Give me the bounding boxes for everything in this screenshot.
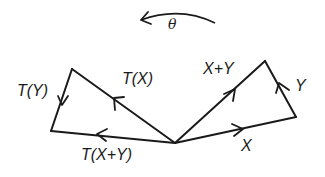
edge-x bbox=[175, 117, 296, 143]
edge-t-x-plus-y bbox=[51, 131, 175, 143]
rotation-arrow-icon bbox=[141, 12, 215, 24]
theta-label: θ bbox=[168, 17, 176, 31]
edge-y bbox=[265, 61, 296, 117]
original-triangle bbox=[175, 61, 296, 143]
edge-t-y bbox=[51, 69, 72, 131]
label-y: Y bbox=[295, 78, 306, 94]
rotated-triangle bbox=[51, 69, 175, 143]
label-t-x-plus-y: T(X+Y) bbox=[81, 147, 132, 163]
label-t-y: T(Y) bbox=[17, 83, 48, 99]
vector-rotation-diagram bbox=[0, 0, 325, 177]
label-t-x: T(X) bbox=[122, 71, 153, 87]
label-x-plus-y: X+Y bbox=[203, 61, 234, 77]
label-x: X bbox=[241, 138, 252, 154]
